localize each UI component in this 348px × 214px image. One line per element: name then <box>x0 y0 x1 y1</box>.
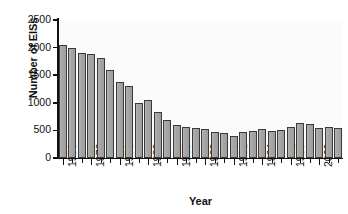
x-tick-mark-minor <box>139 159 140 163</box>
bar <box>163 120 171 158</box>
x-tick-mark-major <box>120 159 121 165</box>
x-axis-title: Year <box>58 195 343 207</box>
x-tick-mark-minor <box>310 159 311 163</box>
bar <box>258 129 266 158</box>
bar <box>106 70 114 158</box>
bar <box>78 53 86 158</box>
y-tick-label: 500 <box>33 124 51 135</box>
x-tick-mark-minor <box>82 159 83 163</box>
bar <box>239 132 247 158</box>
y-tick-mark <box>53 74 57 76</box>
bar <box>68 48 76 158</box>
y-tick-mark <box>53 157 57 159</box>
x-tick-mark-major <box>63 159 64 165</box>
x-tick-mark-minor <box>338 159 339 163</box>
x-tick-mark-minor <box>186 159 187 163</box>
x-tick-mark-major <box>148 159 149 165</box>
x-tick-mark-minor <box>272 159 273 163</box>
bar <box>296 123 304 158</box>
bar <box>249 131 257 158</box>
bar <box>116 82 124 158</box>
x-tick-mark-minor <box>72 159 73 163</box>
x-tick-mark-minor <box>196 159 197 163</box>
bar <box>220 133 228 158</box>
bar <box>87 54 95 158</box>
y-tick-mark <box>53 47 57 49</box>
x-tick-mark-major <box>319 159 320 165</box>
bar <box>173 125 181 158</box>
bar <box>192 128 200 158</box>
x-tick-mark-minor <box>243 159 244 163</box>
bar <box>325 127 333 158</box>
bar <box>135 103 143 158</box>
x-tick-mark-minor <box>329 159 330 163</box>
y-tick-mark <box>53 102 57 104</box>
bar <box>315 128 323 158</box>
bar <box>268 131 276 158</box>
bar <box>334 128 342 158</box>
x-tick-mark-minor <box>300 159 301 163</box>
x-tick-mark-major <box>291 159 292 165</box>
x-tick-mark-minor <box>167 159 168 163</box>
bar <box>154 112 162 158</box>
y-tick-label: 1500 <box>28 69 51 80</box>
bar <box>287 127 295 158</box>
x-tick-mark-minor <box>224 159 225 163</box>
x-tick-mark-major <box>205 159 206 165</box>
x-tick-mark-minor <box>281 159 282 163</box>
x-tick-mark-major <box>91 159 92 165</box>
bar <box>277 130 285 158</box>
x-tick-mark-minor <box>215 159 216 163</box>
bar <box>211 132 219 158</box>
x-tick-mark-minor <box>129 159 130 163</box>
bar <box>182 127 190 158</box>
y-tick-mark <box>53 130 57 132</box>
y-tick-mark <box>53 19 57 21</box>
x-tick-mark-minor <box>253 159 254 163</box>
x-tick-mark-minor <box>110 159 111 163</box>
bar <box>306 124 314 158</box>
bar <box>201 129 209 158</box>
y-tick-label: 2000 <box>28 42 51 53</box>
bar-chart-figure: Number of EISs 05001000150020002500 1973… <box>0 0 348 214</box>
bar <box>144 100 152 158</box>
bar <box>230 136 238 158</box>
x-tick-mark-minor <box>101 159 102 163</box>
y-tick-label: 2500 <box>28 14 51 25</box>
bar <box>125 86 133 158</box>
y-tick-label: 1000 <box>28 97 51 108</box>
x-tick-mark-major <box>234 159 235 165</box>
x-tick-mark-major <box>177 159 178 165</box>
x-tick-mark-minor <box>158 159 159 163</box>
x-tick-mark-major <box>262 159 263 165</box>
bar <box>97 58 105 158</box>
y-tick-label: 0 <box>45 152 51 163</box>
bar <box>59 45 67 158</box>
